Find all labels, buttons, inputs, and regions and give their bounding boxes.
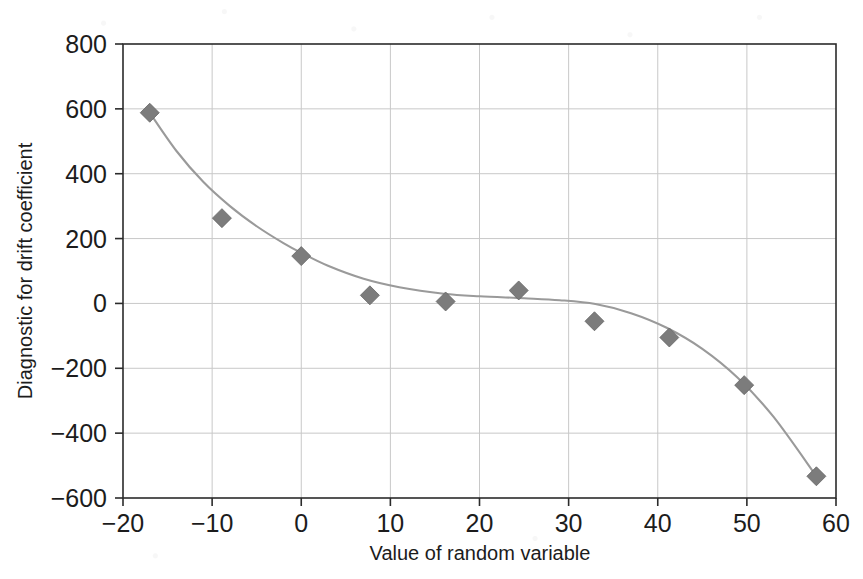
x-tick-label: 30	[555, 509, 583, 537]
data-point-marker	[140, 103, 159, 122]
x-tick-label: −20	[102, 509, 144, 537]
x-tick-label: 0	[294, 509, 308, 537]
x-tick-label: 60	[822, 509, 850, 537]
y-axis-title: Diagnostic for drift coefficient	[14, 142, 36, 399]
x-tick-label: 40	[644, 509, 672, 537]
y-tick-label: −400	[51, 419, 107, 447]
gridlines	[123, 44, 836, 498]
y-tick-label: −200	[51, 354, 107, 382]
x-tick-label: 10	[376, 509, 404, 537]
x-tick-labels: −20−100102030405060	[102, 509, 850, 537]
x-tick-label: −10	[191, 509, 233, 537]
figure-container: −20−100102030405060 −600−400−20002004006…	[0, 0, 863, 579]
y-tick-label: 400	[65, 160, 107, 188]
tick-marks	[115, 44, 836, 506]
y-tick-label: −600	[51, 484, 107, 512]
data-point-marker	[360, 286, 379, 305]
data-point-marker	[585, 312, 604, 331]
y-tick-label: 800	[65, 30, 107, 58]
data-point-markers	[140, 103, 826, 486]
data-point-marker	[807, 467, 826, 486]
scatter-chart: −20−100102030405060 −600−400−20002004006…	[0, 0, 863, 579]
data-point-marker	[660, 328, 679, 347]
data-point-marker	[212, 209, 231, 228]
y-tick-label: 600	[65, 95, 107, 123]
x-axis-title: Value of random variable	[370, 542, 591, 564]
y-tick-labels: −600−400−2000200400600800	[51, 30, 107, 512]
y-tick-label: 0	[93, 289, 107, 317]
fit-curve	[150, 113, 817, 477]
y-tick-label: 200	[65, 225, 107, 253]
x-tick-label: 20	[466, 509, 494, 537]
x-tick-label: 50	[733, 509, 761, 537]
